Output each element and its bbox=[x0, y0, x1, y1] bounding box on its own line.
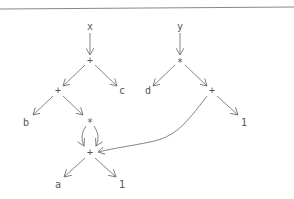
node-plus1: + bbox=[87, 55, 93, 66]
node-star1: * bbox=[177, 57, 183, 68]
edge-plus3-plus4 bbox=[98, 96, 207, 152]
node-plus4: + bbox=[87, 147, 93, 158]
node-d: d bbox=[145, 85, 151, 96]
edge-star1-plus3 bbox=[185, 65, 207, 86]
edge-plus1-plus2 bbox=[63, 65, 85, 86]
node-c: c bbox=[119, 85, 125, 96]
node-one1: 1 bbox=[241, 117, 247, 128]
edge-star2-plus4-left bbox=[82, 126, 86, 146]
node-plus2: + bbox=[55, 85, 61, 96]
node-plus3: + bbox=[209, 85, 215, 96]
top-rule bbox=[0, 7, 294, 9]
node-a: a bbox=[55, 179, 61, 190]
edge-plus3-one1 bbox=[217, 96, 238, 115]
node-y: y bbox=[177, 21, 183, 32]
node-x: x bbox=[87, 21, 93, 32]
node-one2: 1 bbox=[119, 179, 125, 190]
edge-star1-d bbox=[153, 65, 175, 86]
node-star2: * bbox=[87, 117, 93, 128]
edge-star2-plus4-right bbox=[94, 126, 98, 146]
edges bbox=[33, 33, 238, 177]
expression-dag-diagram: x + y * + c d + b * 1 + a 1 bbox=[0, 0, 294, 199]
node-b: b bbox=[23, 117, 29, 128]
edge-plus2-star2 bbox=[63, 96, 83, 115]
edge-plus4-one2 bbox=[95, 158, 116, 177]
edge-plus1-c bbox=[95, 65, 117, 86]
nodes: x + y * + c d + b * 1 + a 1 bbox=[23, 21, 247, 190]
edge-plus4-a bbox=[64, 158, 85, 177]
edge-plus2-b bbox=[33, 96, 53, 115]
